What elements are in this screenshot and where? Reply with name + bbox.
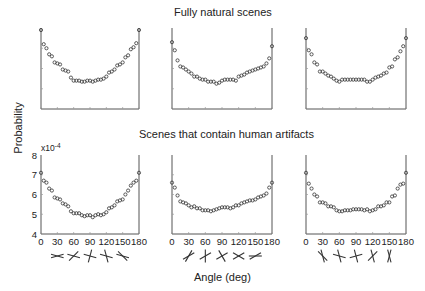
data-point bbox=[127, 189, 130, 192]
y-tick-label: 8 bbox=[32, 150, 37, 161]
x-tick-label: 150 bbox=[115, 236, 131, 247]
x-tick-label: 60 bbox=[68, 236, 79, 247]
data-point bbox=[129, 184, 132, 187]
y-tick-label: 6 bbox=[32, 189, 37, 200]
data-point bbox=[173, 186, 176, 189]
data-point bbox=[265, 62, 268, 65]
x-tick-label: 180 bbox=[264, 236, 280, 247]
data-point bbox=[316, 63, 319, 66]
angle-glyph-icon bbox=[100, 250, 113, 263]
data-point bbox=[67, 205, 70, 208]
scatter-panel-2 bbox=[170, 28, 273, 109]
data-point bbox=[113, 68, 116, 71]
scatter-panel-6: 0306090120150180 bbox=[303, 155, 414, 262]
x-tick-label: 60 bbox=[334, 236, 345, 247]
angle-glyph-icon bbox=[368, 250, 377, 263]
x-tick-label: 120 bbox=[231, 236, 247, 247]
data-point bbox=[268, 57, 271, 60]
data-point bbox=[310, 187, 313, 190]
x-tick-label: 180 bbox=[131, 236, 147, 247]
data-point bbox=[124, 193, 127, 196]
data-point bbox=[45, 47, 48, 50]
data-point bbox=[268, 186, 271, 189]
angle-glyph-icon bbox=[183, 250, 194, 261]
data-point bbox=[396, 56, 399, 59]
angle-glyph-icon bbox=[318, 250, 327, 263]
scatter-panel-4: 030609012015018045678x10-4 bbox=[32, 142, 147, 262]
angle-glyph-icon bbox=[84, 250, 97, 263]
data-point bbox=[173, 49, 176, 52]
y-tick-label: 5 bbox=[32, 209, 37, 220]
data-point bbox=[176, 59, 179, 62]
x-tick-label: 120 bbox=[365, 236, 381, 247]
data-point bbox=[399, 50, 402, 53]
data-point bbox=[132, 46, 135, 49]
x-tick-label: 30 bbox=[183, 236, 194, 247]
scatter-panel-5: 0306090120150180 bbox=[169, 155, 280, 263]
data-point bbox=[176, 194, 179, 197]
data-point bbox=[307, 182, 310, 185]
angle-glyph-icon bbox=[116, 251, 129, 260]
data-point bbox=[121, 61, 124, 64]
angle-glyph-icon bbox=[67, 251, 80, 260]
y-exponent-label: x10-4 bbox=[41, 142, 61, 153]
data-point bbox=[135, 179, 138, 182]
scatter-panel-1 bbox=[39, 28, 140, 109]
data-point bbox=[307, 49, 310, 52]
data-point bbox=[316, 195, 319, 198]
data-point bbox=[42, 43, 45, 46]
data-point bbox=[127, 54, 130, 57]
angle-glyph-icon bbox=[233, 253, 244, 260]
x-tick-label: 180 bbox=[398, 236, 414, 247]
x-tick-label: 120 bbox=[98, 236, 114, 247]
angle-glyph-icon bbox=[350, 250, 363, 263]
x-tick-label: 0 bbox=[38, 236, 43, 247]
angle-glyph-icon bbox=[249, 253, 262, 260]
data-point bbox=[50, 55, 53, 58]
data-point bbox=[396, 187, 399, 190]
data-point bbox=[135, 42, 138, 45]
data-point bbox=[69, 76, 72, 79]
data-point bbox=[402, 45, 405, 48]
angle-glyph-icon bbox=[51, 254, 64, 257]
data-point bbox=[105, 75, 108, 78]
chart-canvas: 030609012015018045678x10-403060901201501… bbox=[0, 0, 425, 291]
x-tick-label: 90 bbox=[351, 236, 362, 247]
angle-glyph-icon bbox=[333, 250, 346, 263]
x-tick-label: 90 bbox=[85, 236, 96, 247]
y-tick-label: 7 bbox=[32, 169, 37, 180]
data-point bbox=[190, 72, 193, 75]
angle-glyph-icon bbox=[388, 250, 391, 263]
data-point bbox=[105, 211, 108, 214]
x-tick-label: 30 bbox=[52, 236, 63, 247]
data-point bbox=[265, 192, 268, 195]
x-tick-label: 150 bbox=[247, 236, 263, 247]
x-tick-label: 60 bbox=[200, 236, 211, 247]
x-tick-label: 0 bbox=[169, 236, 174, 247]
data-point bbox=[50, 189, 53, 192]
x-tick-label: 150 bbox=[381, 236, 397, 247]
x-tick-label: 30 bbox=[317, 236, 328, 247]
data-point bbox=[45, 181, 48, 184]
scatter-panel-3 bbox=[304, 28, 407, 109]
angle-glyph-icon bbox=[216, 250, 227, 261]
x-tick-label: 90 bbox=[217, 236, 228, 247]
y-tick-label: 4 bbox=[32, 229, 37, 240]
data-point bbox=[310, 53, 313, 56]
data-point bbox=[113, 204, 116, 207]
x-tick-label: 0 bbox=[303, 236, 308, 247]
angle-glyph-icon bbox=[200, 250, 211, 263]
